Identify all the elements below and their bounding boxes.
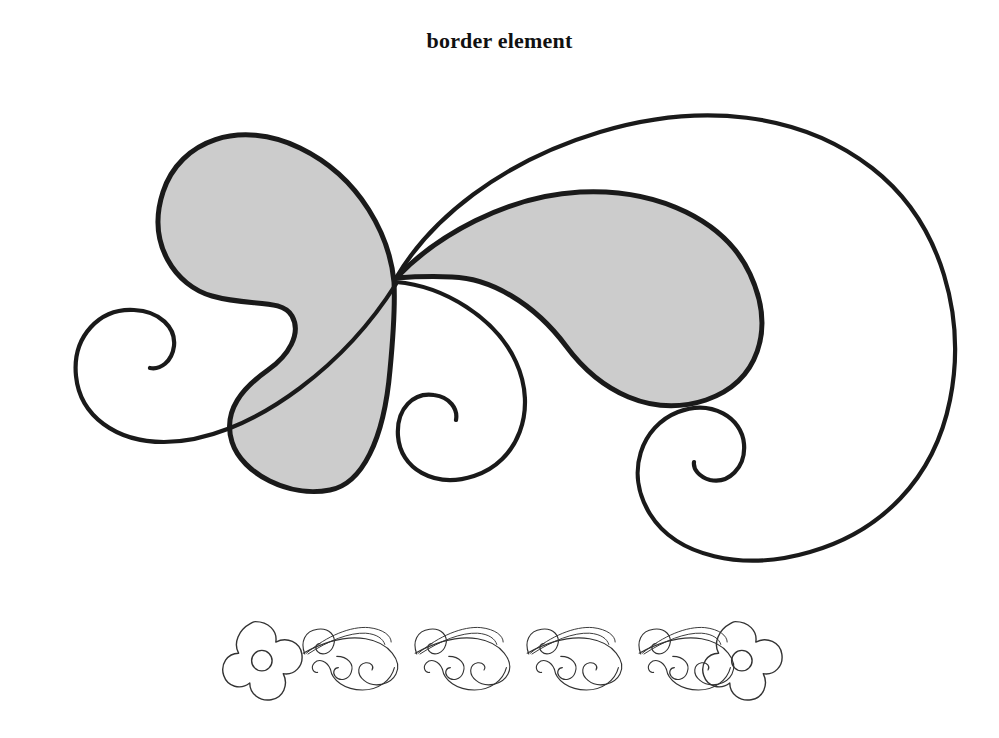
border-flower-left <box>223 622 302 700</box>
border-flower-right <box>703 622 782 700</box>
border-scroll-unit-2 <box>415 627 510 690</box>
border-scroll-unit-1 <box>303 627 398 690</box>
main-ornament-paisley-flourish <box>0 70 999 580</box>
floral-scroll-border-strip <box>0 612 999 708</box>
center-spiral-curl-path <box>396 282 525 480</box>
border-scroll-unit-4 <box>639 627 734 690</box>
page-title: border element <box>0 30 999 52</box>
border-scroll-unit-3 <box>527 627 622 690</box>
artwork-page: border element <box>0 0 999 738</box>
